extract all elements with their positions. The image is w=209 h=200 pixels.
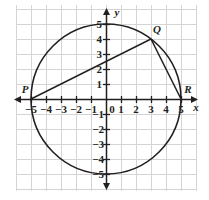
x-tick-label: 3	[148, 103, 154, 115]
point-label-q: Q	[153, 23, 161, 35]
x-tick-label-zero: 0	[109, 103, 115, 115]
x-tick-label: 1	[118, 103, 124, 115]
y-tick-label: −3	[92, 138, 104, 150]
x-tick-label: 2	[133, 103, 139, 115]
y-tick-label: 2	[97, 63, 103, 75]
x-tick-label: −2	[70, 103, 82, 115]
geometry-figure: −5 −4 −3 −2 −1 0 1 2 3 4 5 5 4 3 2 1 −1 …	[0, 0, 209, 200]
x-tick-label: −4	[40, 103, 52, 115]
x-tick-label: −3	[55, 103, 67, 115]
coordinate-plane-svg: −5 −4 −3 −2 −1 0 1 2 3 4 5 5 4 3 2 1 −1 …	[0, 0, 209, 200]
y-axis-label: y	[113, 6, 120, 18]
y-tick-label: 3	[97, 48, 103, 60]
y-tick-label: 5	[97, 18, 103, 30]
y-tick-label: −5	[92, 168, 104, 180]
x-axis-label: x	[192, 101, 199, 113]
point-label-r: R	[183, 83, 191, 95]
y-tick-label: −1	[92, 108, 104, 120]
y-tick-label: −4	[92, 153, 104, 165]
y-tick-label: −2	[92, 123, 104, 135]
x-tick-label: −5	[25, 103, 37, 115]
x-tick-label: 5	[178, 103, 184, 115]
y-tick-label: 4	[97, 33, 103, 45]
y-tick-label: 1	[97, 78, 103, 90]
point-label-p: P	[22, 83, 29, 95]
x-tick-label: 4	[163, 103, 169, 115]
